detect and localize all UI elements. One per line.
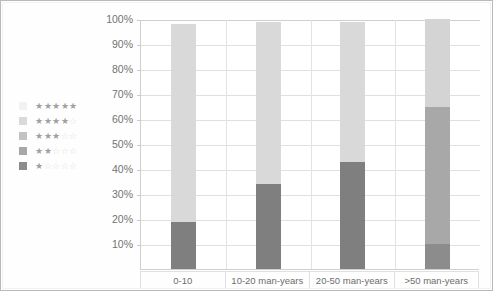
y-axis-labels: 100%90%80%70%60%50%40%30%20%10% (1, 1, 140, 291)
y-axis-tick (137, 195, 141, 196)
y-axis-tick (137, 245, 141, 246)
y-axis-tick-label: 60% (112, 113, 133, 125)
y-axis-tick (137, 45, 141, 46)
bar-3[interactable] (340, 22, 365, 270)
bar-segment (425, 107, 450, 245)
x-axis-label-3: 20-50 man-years (310, 271, 395, 289)
bar-segment (340, 162, 365, 270)
x-axis-category-labels: 0-1010-20 man-years20-50 man-years>50 ma… (140, 271, 479, 289)
bar-segment (256, 184, 281, 269)
y-axis-tick (137, 120, 141, 121)
y-axis-tick-label: 70% (112, 88, 133, 100)
y-axis-tick-label: 50% (112, 138, 133, 150)
y-axis-tick-label: 30% (112, 188, 133, 200)
category-separator (226, 20, 227, 269)
x-axis-label-4: >50 man-years (395, 271, 480, 289)
y-axis-tick (137, 95, 141, 96)
y-axis-tick-label: 80% (112, 63, 133, 75)
y-axis-tick-label: 90% (112, 38, 133, 50)
bar-segment (425, 244, 450, 269)
document-frame: ★★★★★ ★★★★☆ ★★★☆☆ ★★☆☆☆ ★☆☆☆☆ 100%90%80%… (0, 0, 493, 291)
bar-segment (171, 24, 196, 222)
x-axis-label-2: 10-20 man-years (226, 271, 311, 289)
y-axis-tick (137, 220, 141, 221)
bar-1[interactable] (171, 24, 196, 269)
y-axis-tick (137, 20, 141, 21)
y-axis-tick (137, 170, 141, 171)
bar-4[interactable] (425, 19, 450, 269)
category-separator (395, 20, 396, 269)
chart-plot-area (140, 20, 479, 270)
bar-segment (425, 19, 450, 107)
bar-segment (340, 22, 365, 162)
y-axis-tick (137, 70, 141, 71)
category-separator (311, 20, 312, 269)
y-axis-tick-label: 10% (112, 238, 133, 250)
bar-segment (256, 22, 281, 185)
y-axis-tick-label: 40% (112, 163, 133, 175)
x-axis-label-1: 0-10 (140, 271, 226, 289)
y-axis-tick (137, 145, 141, 146)
y-axis-tick-label: 100% (106, 13, 133, 25)
y-axis-tick-label: 20% (112, 213, 133, 225)
bar-segment (171, 222, 196, 270)
bar-2[interactable] (256, 22, 281, 270)
